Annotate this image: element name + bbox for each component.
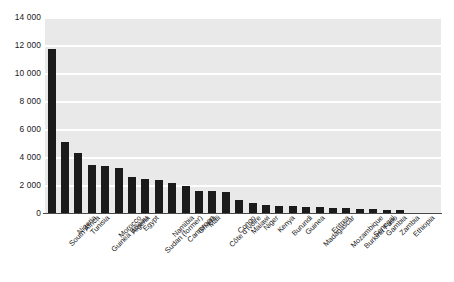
bar (182, 186, 190, 213)
y-axis-tick-label: 12 000 (15, 40, 41, 50)
y-axis: 02 0004 0006 0008 00010 00012 00014 000 (0, 17, 41, 213)
bar (101, 166, 109, 213)
bar-chart: 02 0004 0006 0008 00010 00012 00014 000 … (0, 0, 454, 282)
bar (235, 200, 243, 213)
bar (195, 191, 203, 213)
y-axis-tick-label: 2 000 (20, 180, 41, 190)
bar (141, 179, 149, 213)
bar (222, 192, 230, 213)
bar (168, 183, 176, 213)
y-axis-tick-label: 8 000 (20, 96, 41, 106)
y-axis-tick-label: 14 000 (15, 12, 41, 22)
bar (74, 153, 82, 213)
y-axis-tick-label: 6 000 (20, 124, 41, 134)
bar (115, 168, 123, 214)
bar (88, 165, 96, 213)
bar (128, 177, 136, 213)
y-axis-tick-label: 0 (36, 208, 41, 218)
bars-layer (45, 17, 441, 213)
bar (61, 142, 69, 213)
bar (208, 191, 216, 213)
y-axis-tick-label: 10 000 (15, 68, 41, 78)
bar (155, 180, 163, 213)
x-axis-labels: South AfricaNigeriaTunisiaGuinea BissauM… (45, 214, 454, 282)
y-axis-tick-label: 4 000 (20, 152, 41, 162)
bar (48, 49, 56, 214)
